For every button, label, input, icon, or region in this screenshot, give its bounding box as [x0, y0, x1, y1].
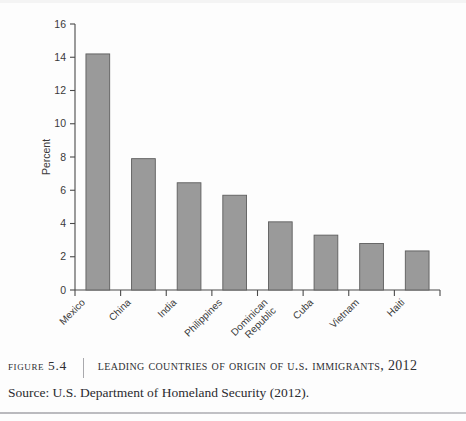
bar: [132, 159, 156, 290]
bar: [405, 251, 429, 290]
bottom-rule: [0, 412, 466, 414]
bar-chart: 0246810121416 MexicoChinaIndiaPhilippine…: [0, 0, 466, 352]
x-axis-category-label: Haiti: [385, 297, 407, 319]
caption-divider: [83, 358, 84, 378]
y-tick-label: 4: [60, 217, 66, 229]
caption-row: Figure 5.4 Leading Countries of Origin o…: [8, 358, 458, 378]
y-axis-title: Percent: [40, 139, 52, 175]
figure-title: Leading Countries of Origin of U.S. Immi…: [98, 358, 418, 374]
bar-series: [86, 54, 429, 290]
y-tick-label: 16: [54, 18, 66, 30]
bar: [360, 243, 384, 290]
bar: [268, 222, 292, 290]
bar: [177, 183, 201, 290]
bar: [86, 54, 110, 290]
x-axis-category-label: Philippines: [182, 297, 224, 339]
x-axis-category-label: Mexico: [57, 296, 87, 326]
x-axis-labels: MexicoChinaIndiaPhilippinesDominicanRepu…: [57, 296, 407, 346]
x-axis-ticks: [75, 290, 440, 296]
x-axis-category-label: DominicanRepublic: [229, 297, 278, 346]
x-axis-category-label: China: [107, 296, 134, 323]
figure-number: Figure 5.4: [8, 358, 67, 374]
y-tick-label: 12: [54, 84, 66, 96]
figure-page: 0246810121416 MexicoChinaIndiaPhilippine…: [0, 0, 466, 421]
y-tick-label: 2: [60, 250, 66, 262]
figure-caption-block: Figure 5.4 Leading Countries of Origin o…: [0, 352, 466, 421]
y-tick-label: 14: [54, 51, 66, 63]
figure-source-note: Source: U.S. Department of Homeland Secu…: [8, 385, 309, 401]
bar: [223, 195, 247, 290]
y-tick-label: 6: [60, 184, 66, 196]
y-tick-label: 8: [60, 151, 66, 163]
bar: [314, 235, 338, 290]
x-axis-category-label: India: [155, 296, 178, 319]
x-axis-category-label: Cuba: [291, 296, 316, 321]
chart-canvas: 0246810121416 MexicoChinaIndiaPhilippine…: [0, 0, 466, 352]
y-axis-ticks: 0246810121416: [54, 18, 75, 296]
x-axis-category-label: Vietnam: [327, 297, 361, 331]
y-tick-label: 0: [60, 284, 66, 296]
y-tick-label: 10: [54, 117, 66, 129]
